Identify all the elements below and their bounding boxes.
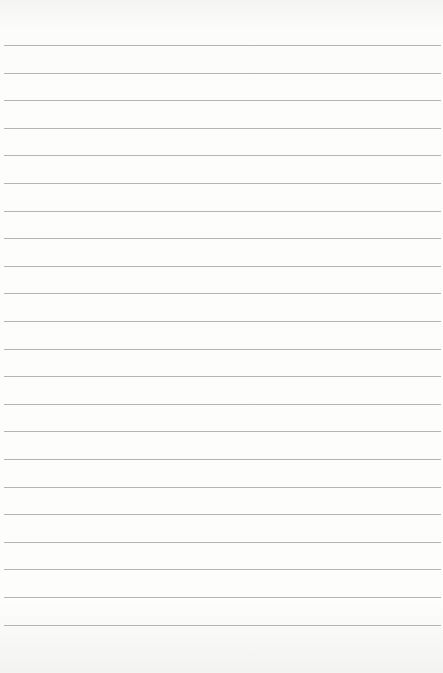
ruled-line (4, 597, 441, 598)
ruled-line (4, 459, 441, 460)
ruled-line (4, 293, 441, 294)
ruled-line (4, 211, 441, 212)
lined-paper (0, 0, 443, 673)
ruled-line (4, 542, 441, 543)
ruled-line (4, 487, 441, 488)
ruled-line (4, 404, 441, 405)
ruled-line (4, 45, 441, 46)
ruled-line (4, 321, 441, 322)
ruled-line (4, 349, 441, 350)
ruled-line (4, 155, 441, 156)
ruled-line (4, 569, 441, 570)
ruled-line (4, 514, 441, 515)
ruled-line (4, 376, 441, 377)
ruled-line (4, 128, 441, 129)
ruled-line (4, 266, 441, 267)
ruled-line (4, 238, 441, 239)
ruled-line (4, 625, 441, 626)
ruled-line (4, 183, 441, 184)
ruled-line (4, 73, 441, 74)
ruled-line (4, 100, 441, 101)
ruled-line (4, 431, 441, 432)
